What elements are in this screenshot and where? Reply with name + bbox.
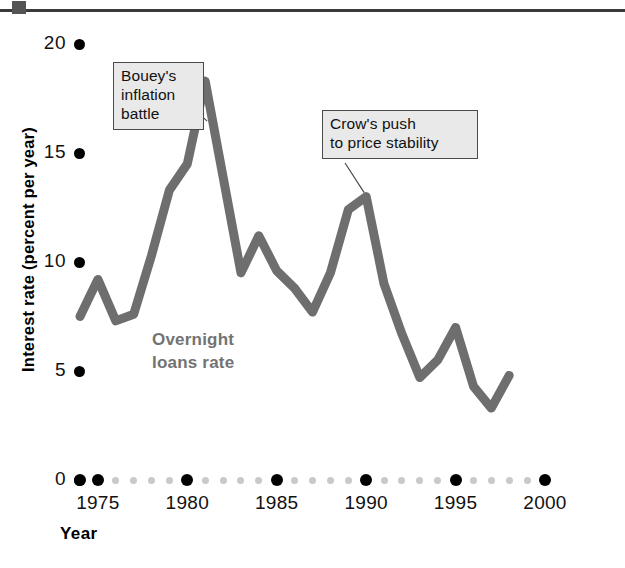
x-axis-dot-1982: [220, 477, 227, 484]
x-tick-label-1980: 1980: [152, 492, 222, 514]
x-tick-label-1985: 1985: [242, 492, 312, 514]
x-axis-dot-1974: [74, 474, 86, 486]
x-tick-label-1975: 1975: [63, 492, 133, 514]
y-tick-label-15: 15: [26, 141, 66, 163]
annotation-bouey-inflation-battle: Bouey's inflation battle: [113, 62, 204, 130]
y-tick-dot-15: [74, 148, 85, 159]
x-tick-label-2000: 2000: [510, 492, 580, 514]
annotation-bouey-line-3: battle: [121, 105, 196, 124]
series-label-line-1: Overnight: [152, 329, 234, 352]
x-axis-dot-1987: [309, 477, 316, 484]
y-tick-label-10: 10: [26, 250, 66, 272]
x-axis-title: Year: [60, 524, 98, 544]
x-tick-label-1990: 1990: [331, 492, 401, 514]
y-tick-dot-10: [74, 257, 85, 268]
annotation-bouey-line-1: Bouey's: [121, 67, 196, 86]
y-tick-dot-5: [74, 366, 85, 377]
figure-root: Interest rate (percent per year) 2015105…: [0, 0, 625, 568]
y-tick-dot-20: [74, 39, 85, 50]
x-axis-dot-1998: [506, 477, 513, 484]
x-axis-dot-2000: [539, 474, 551, 486]
x-axis-dot-1996: [470, 477, 477, 484]
x-axis-dot-1979: [166, 477, 173, 484]
x-axis-dot-1997: [488, 477, 495, 484]
x-axis-dot-1999: [524, 477, 531, 484]
crow-leader-line: [345, 163, 364, 193]
x-axis-dot-1995: [450, 474, 462, 486]
x-axis-dot-1988: [327, 477, 334, 484]
y-tick-label-20: 20: [26, 32, 66, 54]
x-axis-dot-1985: [271, 474, 283, 486]
x-axis-dot-1978: [148, 477, 155, 484]
y-tick-label-0: 0: [26, 468, 66, 490]
y-tick-label-5: 5: [26, 359, 66, 381]
x-axis-dot-1991: [381, 477, 388, 484]
annotation-crow-line-2: to price stability: [330, 134, 470, 153]
x-axis-dot-1975: [92, 474, 104, 486]
x-axis-dot-1981: [202, 477, 209, 484]
annotation-crow-line-1: Crow's push: [330, 115, 470, 134]
x-tick-label-1995: 1995: [421, 492, 491, 514]
series-inline-label: Overnight loans rate: [152, 329, 234, 375]
annotation-crow-price-stability: Crow's push to price stability: [322, 110, 478, 159]
series-label-line-2: loans rate: [152, 352, 234, 375]
x-axis-dot-1989: [345, 477, 352, 484]
annotation-bouey-line-2: inflation: [121, 86, 196, 105]
